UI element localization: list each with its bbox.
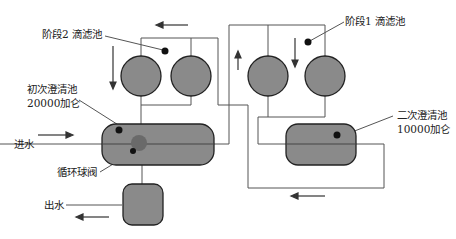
primary-clarifier-label-2: 20000加仑 — [27, 97, 80, 110]
primary-clarifier-label-1: 初次澄清池 — [27, 83, 77, 96]
recirculation-valve-label: 循环球阀 — [57, 166, 97, 179]
stage2-filter-right — [171, 56, 211, 96]
stage2-filter-label: 阶段2 滴滤池 — [42, 28, 102, 41]
outflow-label: 出水 — [44, 199, 64, 212]
stage1-filter-left — [248, 56, 288, 96]
stage1-filter-label: 阶段1 滴滤池 — [345, 15, 405, 28]
secondary-clarifier-label-1: 二次澄清池 — [397, 109, 447, 122]
stage1-filter-right — [305, 56, 345, 96]
stage2-filter-left — [121, 56, 161, 96]
secondary-clarifier-label-2: 10000加仑 — [397, 123, 450, 136]
process-flow-diagram: 阶段2 滴滤池 阶段1 滴滤池 初次澄清池 20000加仑 二次澄清池 1000… — [0, 0, 456, 239]
outflow-tank — [123, 184, 163, 225]
inflow-label: 进水 — [14, 138, 34, 151]
